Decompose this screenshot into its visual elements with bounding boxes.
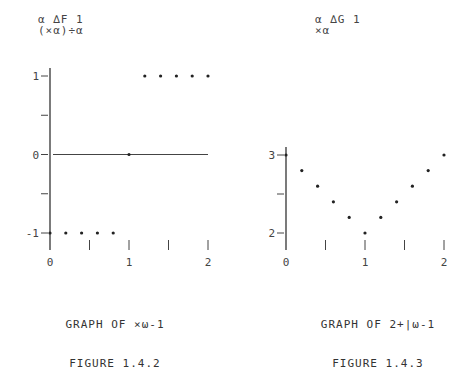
data-point — [175, 74, 178, 77]
y-tick-label: 2 — [268, 227, 275, 240]
x-tick-label: 1 — [362, 256, 369, 269]
data-point — [112, 231, 115, 234]
x-tick-label: 0 — [47, 256, 54, 269]
y-tick-label: 3 — [268, 149, 275, 162]
y-tick-label: -1 — [26, 227, 39, 240]
data-point — [191, 74, 194, 77]
y-tick-label: 1 — [32, 70, 39, 83]
caption-figure-1-4-2: GRAPH OF ×ω-1 FIGURE 1.4.2 — [50, 292, 180, 371]
data-point — [379, 216, 382, 219]
data-point — [348, 216, 351, 219]
data-point — [96, 231, 99, 234]
data-point — [395, 200, 398, 203]
data-point — [284, 153, 287, 156]
data-point — [411, 185, 414, 188]
data-point — [316, 185, 319, 188]
data-point — [143, 74, 146, 77]
caption-figure-number: FIGURE 1.4.3 — [308, 357, 448, 370]
chart-figure-1-4-3: 23012 — [268, 147, 447, 269]
data-point — [48, 231, 51, 234]
caption-title: GRAPH OF 2+|ω-1 — [308, 318, 448, 331]
caption-figure-1-4-3: GRAPH OF 2+|ω-1 FIGURE 1.4.3 — [308, 292, 448, 371]
data-point — [64, 231, 67, 234]
caption-title: GRAPH OF ×ω-1 — [50, 318, 180, 331]
x-tick-label: 1 — [126, 256, 133, 269]
data-point — [363, 231, 366, 234]
data-point — [300, 169, 303, 172]
data-point — [206, 74, 209, 77]
data-point — [442, 153, 445, 156]
x-tick-label: 0 — [283, 256, 290, 269]
caption-figure-number: FIGURE 1.4.2 — [50, 357, 180, 370]
data-point — [80, 231, 83, 234]
data-point — [332, 200, 335, 203]
data-point — [427, 169, 430, 172]
y-tick-label: 0 — [32, 149, 39, 162]
x-tick-label: 2 — [441, 256, 448, 269]
chart-figure-1-4-2: -101012 — [26, 68, 212, 269]
data-point — [127, 153, 130, 156]
data-point — [159, 74, 162, 77]
x-tick-label: 2 — [205, 256, 212, 269]
